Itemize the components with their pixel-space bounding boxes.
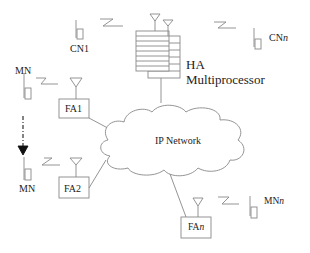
network-diagram: CN1 CNn HA Multiprocessor MN FA1 IP Netw…: [0, 0, 310, 253]
mnn-label: MNn: [264, 197, 284, 207]
fa1-label: FA1: [65, 104, 82, 114]
mn-top-device-icon: [24, 73, 31, 99]
cn1-wireless-link-icon: [100, 19, 123, 26]
fan-label: FAn: [188, 223, 204, 233]
cnn-wireless-link-icon: [214, 22, 236, 28]
mn-top-label: MN: [15, 66, 31, 76]
ip-network-label: IP Network: [155, 136, 201, 146]
mnn-device-icon: [250, 196, 257, 218]
ha-label: HA Multiprocessor: [186, 58, 265, 86]
cnn-label-sub: n: [283, 32, 288, 43]
fan-label-sub: n: [199, 222, 204, 232]
fa2-label: FA2: [64, 184, 81, 194]
diagram-graphics: [0, 0, 310, 253]
mnn-wireless-link-icon: [218, 197, 239, 204]
mnn-label-main: MN: [264, 196, 279, 206]
mn-bottom-device-icon: [24, 157, 31, 180]
movement-arrow-icon: [18, 116, 28, 155]
mn-bottom-wireless-link-icon: [42, 158, 60, 165]
fa2-to-network-link: [89, 160, 106, 188]
cnn-device-icon: [254, 28, 261, 49]
mn-bottom-label: MN: [19, 184, 35, 194]
mn-top-wireless-link-icon: [36, 78, 58, 84]
cn1-label: CN1: [70, 44, 89, 54]
fan-to-network-link: [170, 174, 186, 217]
fan-label-main: FA: [188, 222, 199, 232]
mnn-label-sub: n: [279, 196, 284, 206]
cn1-device-icon: [76, 20, 83, 39]
ha-label-line1: HA: [186, 58, 265, 71]
ha-label-line2: Multiprocessor: [186, 73, 265, 86]
cnn-label: CNn: [269, 33, 288, 43]
ha-multiprocessor-icon: [136, 14, 180, 103]
cnn-label-main: CN: [269, 32, 283, 43]
